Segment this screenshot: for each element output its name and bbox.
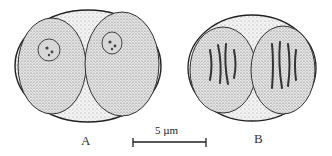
panel-a-drawing: [15, 10, 161, 122]
panel-b-drawing: [188, 15, 316, 121]
scale-bar-label: 5 µm: [155, 124, 178, 136]
scale-bar: [133, 138, 206, 147]
panel-label-b: B: [254, 131, 263, 147]
panel-label-a: A: [81, 133, 90, 149]
